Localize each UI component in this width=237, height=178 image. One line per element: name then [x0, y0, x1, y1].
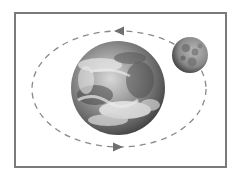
- orbit-arrow-top-left-icon: [114, 27, 124, 36]
- moon-icon: [172, 37, 208, 73]
- orbit-diagram: [0, 0, 237, 178]
- earth-icon: [71, 41, 165, 135]
- orbit-arrow-bottom-right-icon: [113, 143, 123, 152]
